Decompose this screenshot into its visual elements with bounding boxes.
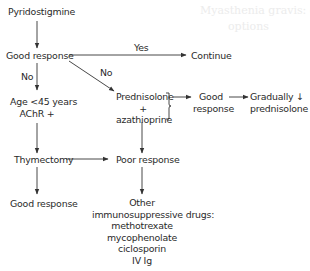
node-gradually-reduce: Gradually ↓ prednisolone [250,91,302,114]
gradually-line-1: Gradually ↓ [250,91,302,103]
node-prednisolone-combo: Prednisolone + azathioprine [116,91,170,126]
drug-methotrexate: methotrexate [92,220,192,232]
node-good-response-3: Good response [10,198,78,210]
combo-line-3: azathioprine [116,114,170,126]
edge-label-yes: Yes [134,42,149,53]
edge-label-no-diagonal: No [100,67,112,78]
node-poor-response: Poor response [116,154,180,166]
other-title-1: Other [92,197,192,209]
drug-mycophenolate: mycophenolate [92,232,192,244]
node-thymectomy: Thymectomy [14,154,73,166]
gradually-line-2: prednisolone [250,103,302,115]
combo-line-2: + [116,103,170,115]
age-line-2: AChR + [10,108,64,120]
drug-iv-ig: IV Ig [92,255,192,267]
combo-line-1: Prednisolone [116,91,170,103]
node-age-criteria: Age <45 years AChR + [10,96,64,119]
good2-line-2: response [193,103,229,115]
node-other-drugs: Other immunosuppressive drugs: methotrex… [92,197,192,266]
good2-line-1: Good [193,91,229,103]
edge-label-no-down: No [21,71,33,82]
drug-ciclosporin: ciclosporin [92,243,192,255]
age-line-1: Age <45 years [10,96,64,108]
other-title-2: immunosuppressive drugs: [92,209,192,221]
node-good-response-1: Good response [6,50,74,62]
node-pyridostigmine: Pyridostigmine [8,6,75,18]
node-good-response-2: Good response [193,91,229,114]
node-continue: Continue [191,50,232,62]
